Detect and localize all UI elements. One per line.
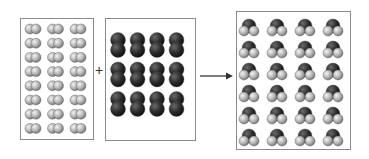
arrow-icon <box>200 73 233 80</box>
molecule-diagram <box>0 0 369 159</box>
water-molecules <box>239 19 343 146</box>
oxygen-molecules <box>111 33 185 117</box>
hydrogen-molecules <box>25 24 86 133</box>
